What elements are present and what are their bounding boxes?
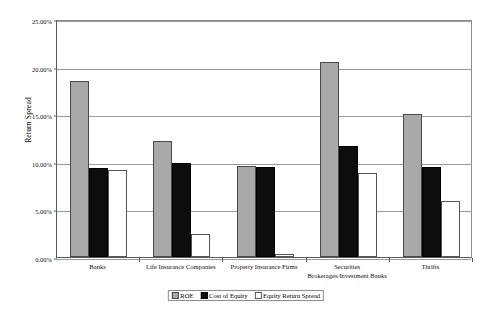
x-axis-label: Banks — [56, 263, 139, 272]
bar[interactable] — [320, 62, 339, 257]
bar[interactable] — [339, 146, 358, 257]
bar[interactable] — [256, 167, 275, 257]
bar[interactable] — [108, 170, 127, 257]
y-tick-mark — [54, 116, 57, 117]
legend-item[interactable]: Equity Return Spread — [255, 292, 321, 299]
bar[interactable] — [70, 81, 89, 257]
legend-swatch-icon — [201, 292, 208, 299]
x-axis-label: Securities Brokerages/Investment Banks — [306, 263, 389, 280]
legend-label: ROE — [180, 292, 193, 299]
x-axis-label: Thrifts — [389, 263, 472, 272]
chart-legend: ROECost of EquityEquity Return Spread — [168, 290, 324, 301]
x-axis-label: Property Insurance Firms — [222, 263, 305, 272]
x-axis-label: Life Insurance Companies — [139, 263, 222, 272]
y-tick-mark — [54, 259, 57, 260]
plot-area: 0.00%5.00%10.00%15.00%20.00%25.00% — [56, 20, 472, 258]
y-tick-mark — [54, 211, 57, 212]
legend-swatch-icon — [255, 292, 262, 299]
bar-chart: Return Spread 0.00%5.00%10.00%15.00%20.0… — [0, 0, 492, 320]
bar-group — [70, 21, 127, 257]
legend-item[interactable]: ROE — [172, 292, 194, 299]
y-tick-mark — [54, 68, 57, 69]
y-tick-mark — [54, 21, 57, 22]
y-tick-label: 5.00% — [35, 208, 52, 215]
bar[interactable] — [153, 141, 172, 257]
y-tick-label: 25.00% — [32, 18, 52, 25]
x-tick-mark — [472, 258, 473, 262]
y-tick-label: 15.00% — [32, 113, 52, 120]
bar[interactable] — [403, 114, 422, 257]
y-tick-mark — [54, 163, 57, 164]
y-tick-label: 10.00% — [32, 160, 52, 167]
bar[interactable] — [275, 254, 294, 257]
legend-swatch-icon — [172, 292, 179, 299]
x-tick-mark — [306, 258, 307, 262]
legend-item[interactable]: Cost of Equity — [201, 292, 248, 299]
bar[interactable] — [89, 168, 108, 257]
bar-group — [237, 21, 294, 257]
gridline — [57, 259, 471, 260]
bar[interactable] — [441, 201, 460, 257]
bar-group — [320, 21, 377, 257]
bar-group — [153, 21, 210, 257]
bar-group — [403, 21, 460, 257]
x-tick-mark — [389, 258, 390, 262]
y-tick-label: 20.00% — [32, 65, 52, 72]
bar[interactable] — [422, 167, 441, 257]
bar[interactable] — [172, 163, 191, 257]
bar[interactable] — [191, 234, 210, 257]
legend-label: Equity Return Spread — [263, 292, 320, 299]
x-tick-mark — [222, 258, 223, 262]
legend-label: Cost of Equity — [209, 292, 247, 299]
bar[interactable] — [237, 166, 256, 257]
bar[interactable] — [358, 173, 377, 257]
x-tick-mark — [139, 258, 140, 262]
y-tick-label: 0.00% — [35, 256, 52, 263]
